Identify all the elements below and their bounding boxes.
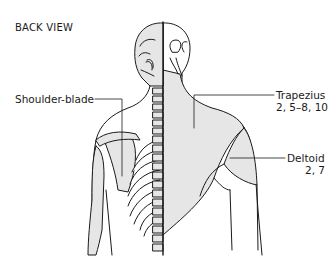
label-deltoid: Deltoid — [287, 152, 325, 164]
spine — [153, 88, 163, 251]
label-trapezius: Trapezius — [276, 89, 325, 101]
back-anatomy-illustration — [0, 0, 336, 272]
label-shoulder-blade: Shoulder-blade — [15, 93, 94, 105]
shoulder-blade — [104, 135, 135, 192]
label-trapezius-numbers: 2, 5–8, 10 — [276, 101, 328, 113]
humerus — [88, 146, 104, 255]
head-left — [135, 23, 163, 86]
label-deltoid-numbers: 2, 7 — [305, 164, 325, 176]
